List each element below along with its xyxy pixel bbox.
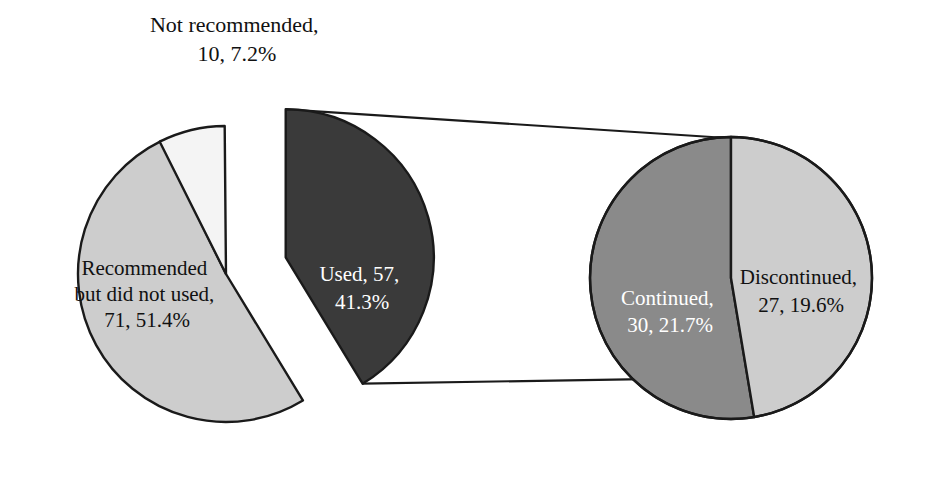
pie-of-pie-chart: Recommended but did not used, 71, 51.4% … [0, 0, 933, 485]
breakout-pie-group: Continued, 30, 21.7% Discontinued, 27, 1… [590, 137, 872, 419]
chart-canvas: Recommended but did not used, 71, 51.4% … [0, 0, 933, 485]
